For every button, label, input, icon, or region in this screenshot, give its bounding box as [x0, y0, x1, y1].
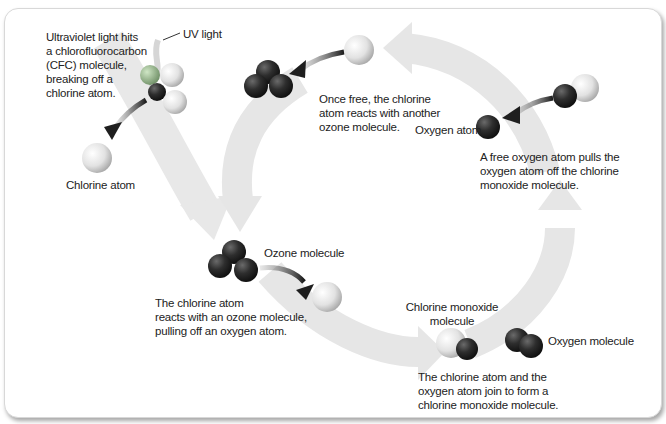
caption-line: (CFC) molecule,	[46, 58, 147, 72]
chlorine-to-ozone-arrow	[289, 52, 344, 78]
chlorine-atom-released	[82, 143, 112, 173]
chlorine-monoxide-label: Chlorine monoxide molecule	[404, 300, 500, 328]
oxygen-atom-label: Oxygen atom	[415, 123, 481, 137]
caption-line: Once free, the chlorine	[319, 92, 440, 106]
free-oxygen-caption: A free oxygen atom pulls the oxygen atom…	[480, 150, 620, 192]
ozone-molecule-label: Ozone molecule	[264, 246, 344, 260]
chlorine-monoxide-top	[553, 74, 599, 108]
caption-line: reacts with an ozone molecule,	[155, 310, 307, 324]
caption-line: oxygen atom join to form a	[418, 384, 558, 398]
caption-line: molecule	[404, 314, 500, 328]
cfc-step-caption: Ultraviolet light hits a chlorofluorocar…	[46, 30, 147, 100]
chlorine-atom-free	[344, 35, 374, 65]
uv-light-leader	[163, 33, 180, 40]
caption-line: chlorine monoxide molecule.	[418, 398, 558, 412]
chlorine-atom-ozone	[312, 282, 342, 312]
caption-line: A free oxygen atom pulls the	[480, 150, 620, 164]
uv-light-label: UV light	[183, 27, 222, 41]
caption-line: chlorine atom.	[46, 86, 147, 100]
caption-line: breaking off a	[46, 72, 147, 86]
caption-line: a chlorofluorocarbon	[46, 44, 147, 58]
caption-line: oxygen atom off the chlorine	[480, 164, 620, 178]
caption-line: monoxide molecule.	[480, 178, 620, 192]
caption-line: pulling off an oxygen atom.	[155, 324, 307, 338]
caption-line: The chlorine atom	[155, 296, 307, 310]
ozone-molecule	[208, 240, 258, 282]
caption-line: atom reacts with another	[319, 106, 440, 120]
join-caption: The chlorine atom and the oxygen atom jo…	[418, 370, 558, 412]
caption-line: Chlorine monoxide	[404, 300, 500, 314]
chlorine-reacts-caption: The chlorine atom reacts with an ozone m…	[155, 296, 307, 338]
caption-line: Ultraviolet light hits	[46, 30, 147, 44]
oxygen-molecule	[505, 328, 543, 358]
oxygen-molecule-label: Oxygen molecule	[548, 334, 634, 348]
caption-line: The chlorine atom and the	[418, 370, 558, 384]
chlorine-atom-label: Chlorine atom	[66, 178, 135, 192]
